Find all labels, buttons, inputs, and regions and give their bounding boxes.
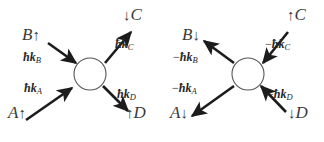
particle-letter-C: C: [295, 5, 306, 24]
momentum-symbol-kD-text: ħk: [274, 87, 287, 101]
momentum-symbol-kA: ħk: [24, 81, 37, 95]
spin-up-arrow-A: ↑: [18, 105, 26, 121]
momentum-symbol-kB: ħk: [180, 50, 193, 64]
momentum-subscript-kA: A: [191, 86, 196, 96]
spin-down-arrow-C: ↓: [123, 7, 131, 23]
momentum-subscript-kD: D: [286, 92, 292, 102]
particle-letter-C: C: [131, 5, 142, 24]
particle-letter-A: A: [8, 103, 18, 122]
momentum-symbol-kA: ħk: [179, 81, 192, 95]
momentum-symbol-kC: ħk: [272, 37, 285, 51]
momentum-label-kC: −ħkC: [265, 38, 290, 52]
momentum-label-kD: ħkD: [117, 88, 136, 102]
particle-label-A: A↑: [8, 104, 26, 121]
incoming-momentum-diagram: A↑ B↑ ↓C ↑D ħkA ħkB ħkC ħkD: [0, 0, 162, 142]
particle-label-C: ↑C: [287, 6, 306, 23]
particle-label-C: ↓C: [123, 6, 142, 23]
momentum-sign-kC: −: [265, 37, 272, 51]
momentum-sign-kD: −: [267, 87, 274, 101]
particle-label-A: A↓: [170, 104, 188, 121]
particle-label-D: ↓D: [288, 104, 308, 121]
interaction-vertex: [74, 58, 106, 90]
momentum-label-kB: ħkB: [23, 51, 41, 65]
momentum-sign-kA: −: [172, 81, 179, 95]
spin-down-arrow-A: ↓: [180, 105, 188, 121]
particle-letter-A: A: [170, 103, 180, 122]
momentum-subscript-kD: D: [130, 92, 136, 102]
momentum-vector-kB: [48, 43, 76, 63]
spin-up-arrow-B: ↑: [32, 27, 40, 43]
momentum-label-kA: ħkA: [24, 82, 42, 96]
particle-letter-D: D: [134, 103, 146, 122]
momentum-subscript-kB: B: [192, 55, 197, 65]
spin-down-arrow-B: ↓: [192, 27, 200, 43]
spin-up-arrow-C: ↑: [287, 7, 295, 23]
momentum-vector-kB: [204, 41, 234, 63]
momentum-label-kA: −ħkA: [172, 82, 197, 96]
particle-letter-B: B: [22, 25, 32, 44]
momentum-vector-kA: [192, 86, 234, 116]
interaction-vertex: [232, 58, 264, 90]
particle-letter-D: D: [296, 103, 308, 122]
particle-label-D: ↑D: [126, 104, 146, 121]
momentum-label-kD: −ħkD: [267, 88, 293, 102]
momentum-subscript-kC: C: [284, 42, 290, 52]
particle-letter-B: B: [182, 25, 192, 44]
momentum-subscript-kC: C: [128, 42, 134, 52]
reversed-momentum-diagram: A↓ B↓ ↑C ↓D −ħkA −ħkB −ħkC −ħkD: [162, 0, 324, 142]
momentum-sign-kB: −: [173, 50, 180, 64]
momentum-subscript-kA: A: [37, 86, 42, 96]
momentum-label-kC: ħkC: [115, 38, 133, 52]
figure-canvas: A↑ B↑ ↓C ↑D ħkA ħkB ħkC ħkD: [0, 0, 324, 142]
spin-down-arrow-D: ↓: [288, 105, 296, 121]
momentum-symbol-kC: ħk: [115, 37, 128, 51]
momentum-subscript-kB: B: [36, 55, 41, 65]
particle-label-B: B↓: [182, 26, 200, 43]
momentum-label-kB: −ħkB: [173, 51, 198, 65]
momentum-symbol-kD: ħk: [117, 87, 130, 101]
momentum-symbol-kB: ħk: [23, 50, 36, 64]
particle-label-B: B↑: [22, 26, 40, 43]
spin-up-arrow-D: ↑: [126, 105, 134, 121]
